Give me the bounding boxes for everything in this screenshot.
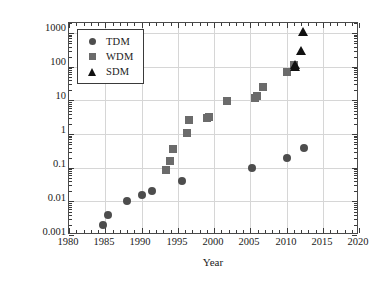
x-axis-tick-minor bbox=[120, 230, 121, 233]
x-axis-tick-minor bbox=[113, 230, 114, 233]
y-axis-tick-minor bbox=[354, 70, 357, 71]
y-axis-tick-minor bbox=[354, 47, 357, 48]
data-point-wdm bbox=[185, 116, 193, 124]
y-axis-tick-minor bbox=[69, 219, 72, 220]
x-axis-tick-minor bbox=[337, 230, 338, 233]
x-tick-label-2005: 2005 bbox=[229, 237, 269, 248]
x-axis-tick-minor bbox=[243, 23, 244, 26]
gridline-vertical bbox=[214, 23, 215, 233]
y-axis-tick-minor bbox=[354, 225, 357, 226]
x-axis-tick-major bbox=[250, 23, 251, 28]
x-axis-tick-minor bbox=[301, 230, 302, 233]
y-axis-tick-minor bbox=[69, 38, 72, 39]
y-axis-tick-minor bbox=[354, 175, 357, 176]
x-axis-tick-minor bbox=[337, 23, 338, 26]
y-axis-tick-minor bbox=[354, 57, 357, 58]
x-axis-tick-minor bbox=[330, 23, 331, 26]
x-axis-tick-minor bbox=[316, 230, 317, 233]
y-tick-label-0.01: 0.01 bbox=[48, 193, 66, 204]
y-axis-tick-minor bbox=[354, 139, 357, 140]
y-axis-tick-minor bbox=[354, 219, 357, 220]
y-axis-tick-minor bbox=[354, 36, 357, 37]
y-tick-label-1000: 1000 bbox=[45, 23, 66, 34]
x-axis-tick-minor bbox=[243, 230, 244, 233]
y-axis-tick-minor bbox=[354, 124, 357, 125]
x-axis-tick-major bbox=[323, 228, 324, 233]
y-axis-tick-minor bbox=[69, 169, 72, 170]
y-axis-tick-minor bbox=[354, 104, 357, 105]
x-axis-tick-minor bbox=[308, 230, 309, 233]
x-axis-tick-major bbox=[359, 228, 360, 233]
y-axis-tick-minor bbox=[354, 80, 357, 81]
data-point-tdm bbox=[283, 154, 291, 162]
y-axis-tick-minor bbox=[354, 38, 357, 39]
x-axis-tick-minor bbox=[192, 230, 193, 233]
x-axis-tick-major bbox=[105, 23, 106, 28]
y-axis-tick-minor bbox=[69, 72, 72, 73]
x-axis-tick-minor bbox=[345, 230, 346, 233]
y-axis-tick-minor bbox=[69, 74, 72, 75]
legend-item-tdm: TDM bbox=[85, 34, 133, 49]
x-axis-tick-minor bbox=[113, 23, 114, 26]
y-axis-tick-minor bbox=[69, 205, 72, 206]
y-axis-tick-minor bbox=[354, 35, 357, 36]
y-axis-tick-minor bbox=[354, 203, 357, 204]
x-axis-tick-minor bbox=[91, 230, 92, 233]
data-point-wdm bbox=[223, 97, 231, 105]
x-axis-tick-minor bbox=[171, 23, 172, 26]
y-axis-tick-minor bbox=[69, 144, 72, 145]
y-tick-label-100: 100 bbox=[50, 57, 66, 68]
y-axis-tick-minor bbox=[69, 207, 72, 208]
legend-item-wdm: WDM bbox=[85, 49, 133, 64]
y-axis-tick-minor bbox=[354, 158, 357, 159]
x-axis-tick-minor bbox=[163, 230, 164, 233]
x-axis-tick-minor bbox=[221, 23, 222, 26]
x-axis-tick-minor bbox=[149, 230, 150, 233]
data-point-tdm bbox=[248, 164, 256, 172]
x-axis-tick-minor bbox=[156, 23, 157, 26]
legend-label-wdm: WDM bbox=[106, 51, 133, 62]
y-axis-tick-minor bbox=[69, 104, 72, 105]
gridline-horizontal bbox=[69, 201, 357, 202]
legend-label-sdm: SDM bbox=[106, 66, 129, 77]
x-axis-tick-minor bbox=[120, 23, 121, 26]
y-axis-tick-minor bbox=[69, 203, 72, 204]
x-axis-tick-minor bbox=[171, 230, 172, 233]
x-axis-tick-minor bbox=[98, 230, 99, 233]
y-axis-tick-minor bbox=[354, 178, 357, 179]
y-axis-tick-minor bbox=[69, 114, 72, 115]
x-axis-tick-minor bbox=[200, 230, 201, 233]
y-axis-tick-minor bbox=[69, 90, 72, 91]
x-axis-tick-minor bbox=[127, 23, 128, 26]
x-axis-tick-major bbox=[287, 23, 288, 28]
data-point-wdm bbox=[205, 113, 213, 121]
x-axis-tick-minor bbox=[258, 23, 259, 26]
x-tick-label-2020: 2020 bbox=[338, 237, 378, 248]
legend-label-tdm: TDM bbox=[106, 36, 130, 47]
y-axis-tick-minor bbox=[354, 74, 357, 75]
x-axis-tick-minor bbox=[221, 230, 222, 233]
y-axis-tick-major bbox=[69, 235, 74, 236]
y-axis-tick-minor bbox=[354, 111, 357, 112]
data-point-tdm bbox=[123, 197, 131, 205]
x-axis-tick-minor bbox=[98, 23, 99, 26]
data-point-sdm bbox=[296, 46, 306, 55]
x-axis-tick-major bbox=[178, 228, 179, 233]
x-tick-label-1980: 1980 bbox=[48, 237, 88, 248]
y-axis-tick-minor bbox=[69, 41, 72, 42]
x-axis-tick-minor bbox=[163, 23, 164, 26]
y-axis-tick-minor bbox=[354, 171, 357, 172]
y-axis-tick-minor bbox=[69, 124, 72, 125]
square-marker-icon bbox=[85, 53, 99, 60]
figure-container: System capacity (Tb/s) Year 1000 100 10 … bbox=[0, 0, 391, 286]
x-axis-tick-minor bbox=[236, 23, 237, 26]
x-axis-tick-minor bbox=[185, 23, 186, 26]
x-axis-tick-minor bbox=[84, 230, 85, 233]
y-axis-tick-minor bbox=[69, 43, 72, 44]
y-axis-tick-minor bbox=[69, 215, 72, 216]
y-axis-tick-minor bbox=[354, 77, 357, 78]
y-axis-tick-minor bbox=[354, 144, 357, 145]
y-axis-tick-minor bbox=[69, 80, 72, 81]
data-point-wdm bbox=[253, 92, 261, 100]
y-axis-tick-minor bbox=[354, 137, 357, 138]
